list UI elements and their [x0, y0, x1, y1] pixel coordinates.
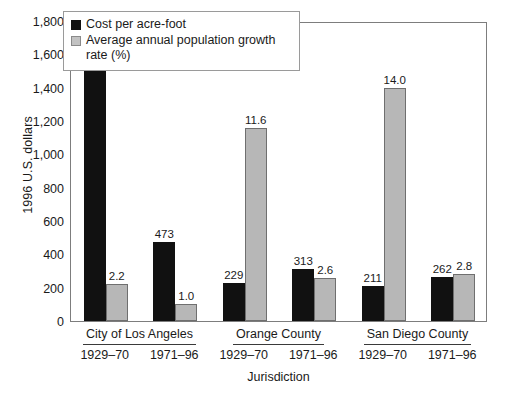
x-axis-group-name: San Diego County [364, 327, 471, 345]
bar-cost-per-acre-foot [362, 286, 384, 321]
bar-population-growth-rate [106, 284, 128, 321]
bar-population-growth-rate [384, 88, 406, 321]
bar-value-label-growth: 14.0 [375, 75, 415, 86]
x-axis-period-row: 1929–701971–96 [209, 348, 348, 362]
bar-cost-per-acre-foot [223, 283, 245, 321]
bar-population-growth-rate [245, 128, 267, 321]
y-tick-label: 1,800 [0, 16, 64, 28]
legend-item-cost-per-acre-foot: Cost per acre-foot [71, 17, 292, 32]
chart-legend: Cost per acre-foot Average annual popula… [63, 11, 300, 71]
bar-population-growth-rate [453, 274, 475, 321]
bar-value-label-growth: 2.8 [444, 261, 484, 272]
bar-value-label-cost: 473 [144, 229, 184, 240]
bar-value-label-growth: 2.6 [305, 265, 345, 276]
y-tick-label: 0 [0, 316, 64, 328]
x-axis-period-label: 1929–70 [80, 348, 129, 362]
y-tick-label: 1,600 [0, 49, 64, 61]
x-axis-period-row: 1929–701971–96 [348, 348, 487, 362]
x-axis-period-label: 1971–96 [428, 348, 477, 362]
bar-cost-per-acre-foot [431, 277, 453, 321]
legend-swatch-icon-cost [71, 20, 81, 30]
legend-item-population-growth: Average annual population growth rate (%… [71, 33, 292, 63]
bar-cost-per-acre-foot [292, 269, 314, 321]
x-axis-group: Orange County1929–701971–96 [209, 324, 348, 362]
bar-population-growth-rate [314, 278, 336, 321]
bar-chart-figure: 1996 U.S. dollars 1,8001,6001,4001,2001,… [0, 0, 505, 411]
y-tick-label: 800 [0, 183, 64, 195]
x-axis-group: City of Los Angeles1929–701971–96 [70, 324, 209, 362]
legend-label-growth: Average annual population growth rate (%… [86, 33, 292, 63]
x-axis-group: San Diego County1929–701971–96 [348, 324, 487, 362]
x-axis-group-name: Orange County [233, 327, 324, 345]
y-tick-label: 1,200 [0, 116, 64, 128]
bar-population-growth-rate [175, 304, 197, 321]
legend-label-cost: Cost per acre-foot [86, 17, 186, 32]
y-tick-label: 1,000 [0, 149, 64, 161]
legend-swatch-icon-growth [71, 36, 81, 46]
x-axis-period-label: 1971–96 [289, 348, 338, 362]
x-axis-period-label: 1971–96 [150, 348, 199, 362]
x-axis-group-name: City of Los Angeles [83, 327, 196, 345]
x-axis-period-label: 1929–70 [219, 348, 268, 362]
y-tick-label: 1,400 [0, 83, 64, 95]
bar-value-label-growth: 2.2 [97, 271, 137, 282]
y-tick-label: 600 [0, 216, 64, 228]
y-axis-tick-labels: 1,8001,6001,4001,2001,0008006004002000 [0, 0, 64, 411]
y-tick-label: 200 [0, 283, 64, 295]
y-tick-label: 400 [0, 249, 64, 261]
bar-value-label-growth: 11.6 [236, 115, 276, 126]
x-axis-period-label: 1929–70 [358, 348, 407, 362]
x-axis-title: Jurisdiction [70, 370, 487, 384]
bar-cost-per-acre-foot [153, 242, 175, 321]
bar-value-label-growth: 1.0 [166, 291, 206, 302]
x-axis-period-row: 1929–701971–96 [70, 348, 209, 362]
